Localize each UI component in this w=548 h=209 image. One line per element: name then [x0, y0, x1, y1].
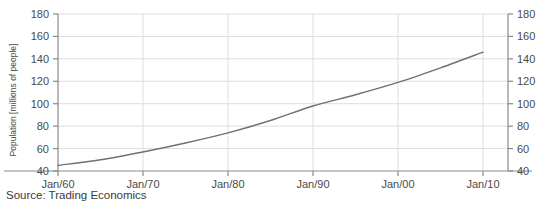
y-axis-ticks-left: [53, 14, 58, 171]
y-tick-label-left: 60: [37, 143, 49, 155]
y-tick-label-left: 40: [37, 165, 49, 177]
x-tick-label: Jan/90: [296, 178, 329, 190]
x-tick-label: Jan/00: [381, 178, 414, 190]
population-line-chart: 406080100120140160180 406080100120140160…: [0, 0, 548, 209]
y-tick-label-left: 80: [37, 120, 49, 132]
y-tick-label-right: 100: [517, 98, 535, 110]
y-tick-label-right: 80: [517, 120, 529, 132]
y-tick-label-right: 120: [517, 75, 535, 87]
y-tick-label-right: 60: [517, 143, 529, 155]
y-tick-label-left: 160: [31, 30, 49, 42]
y-axis-tick-labels-left: 406080100120140160180: [31, 8, 49, 177]
axis-lines: [4, 14, 532, 171]
y-axis-tick-labels-right: 406080100120140160180: [517, 8, 535, 177]
chart-canvas: 406080100120140160180 406080100120140160…: [0, 0, 548, 209]
y-tick-label-right: 160: [517, 30, 535, 42]
x-tick-label: Jan/80: [211, 178, 244, 190]
y-axis-title: Population [millions of people]: [8, 44, 18, 157]
source-note: Source: Trading Economics: [6, 189, 147, 201]
y-axis-ticks-right: [508, 14, 513, 171]
y-tick-label-left: 120: [31, 75, 49, 87]
y-tick-label-left: 140: [31, 53, 49, 65]
y-tick-label-left: 180: [31, 8, 49, 20]
y-tick-label-left: 100: [31, 98, 49, 110]
x-axis-ticks: [58, 171, 483, 176]
x-tick-label: Jan/10: [466, 178, 499, 190]
y-tick-label-right: 140: [517, 53, 535, 65]
grid-lines: [58, 14, 508, 171]
y-tick-label-right: 40: [517, 165, 529, 177]
y-tick-label-right: 180: [517, 8, 535, 20]
